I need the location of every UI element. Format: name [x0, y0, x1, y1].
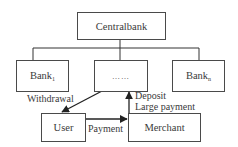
central-bank-node: Centralbank	[77, 12, 166, 40]
bank-middle-label: ……	[112, 72, 130, 81]
bank-last-subscript: n	[208, 76, 211, 82]
bank-first-label: Bank	[30, 70, 52, 81]
payment-label: Payment	[88, 123, 123, 134]
large-payment-label: Large payment	[135, 101, 195, 112]
bank-last-label: Bank	[186, 70, 208, 81]
user-node: User	[41, 113, 86, 142]
merchant-label: Merchant	[144, 122, 184, 133]
bank-last-node: Bankn	[172, 60, 225, 92]
bank-middle-node: ……	[94, 60, 148, 92]
user-label: User	[54, 122, 74, 133]
central-bank-label: Centralbank	[96, 21, 147, 32]
bank-first-node: Bank1	[16, 60, 69, 92]
withdrawal-label: Withdrawal	[27, 93, 74, 104]
deposit-label: Deposit	[135, 90, 166, 101]
bank-first-subscript: 1	[52, 76, 55, 82]
merchant-node: Merchant	[128, 113, 201, 142]
